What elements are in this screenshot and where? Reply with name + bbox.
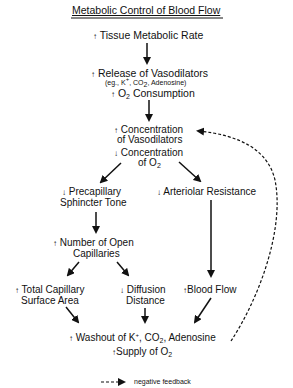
text-part: , CO <box>139 332 160 343</box>
arrow-open-capillaries-to-diffusion <box>117 262 128 275</box>
increase-arrow-icon: ↑ <box>111 90 115 99</box>
text-part: of O <box>138 157 157 168</box>
text-part: Consumption <box>130 87 195 99</box>
node-surface-area-line2: Surface Area <box>21 295 79 307</box>
node-precapillary-line2: Sphincter Tone <box>60 197 127 209</box>
node-diffusion-line2: Distance <box>126 295 165 307</box>
text-part: , Adenosine <box>163 332 215 343</box>
negative-feedback-arrow <box>198 131 277 341</box>
arrow-concentration-to-precapillary <box>101 163 121 182</box>
node-open-capillaries-line2: Capillaries <box>73 248 120 260</box>
text-part: Washout of K <box>76 332 136 343</box>
node-washout: ↑ Washout of K+, CO2, Adenosine <box>69 332 216 345</box>
arrow-concentration-to-arteriolar <box>179 162 200 181</box>
arrow-blood-flow-to-washout <box>195 298 211 322</box>
increase-arrow-icon: ↑ <box>15 286 19 295</box>
node-supply-o2: ↑Supply of O2 <box>112 346 172 359</box>
legend-label: negative feedback <box>134 376 191 388</box>
subscript: 2 <box>157 162 161 169</box>
node-text: Number of Open <box>60 237 134 248</box>
decrease-arrow-icon: ↓ <box>120 286 124 295</box>
subscript: 2 <box>168 351 172 358</box>
node-tissue-metabolic-rate: ↑ Tissue Metabolic Rate <box>93 29 203 43</box>
text-part: O <box>118 87 126 99</box>
node-o2-consumption: ↑ O2 Consumption <box>111 87 195 101</box>
node-concentration-vasodilators-line2: of Vasodilators <box>117 134 182 146</box>
increase-arrow-icon: ↑ <box>91 70 95 79</box>
decrease-arrow-icon: ↓ <box>62 188 66 197</box>
node-arteriolar-resistance: ↓ Arteriolar Resistance <box>157 186 256 199</box>
node-text: Precapillary <box>69 186 121 197</box>
node-text: Blood Flow <box>187 284 236 295</box>
node-text: Tissue Metabolic Rate <box>100 29 204 41</box>
text-part: Supply of O <box>116 346 168 357</box>
node-concentration-o2-line2: of O2 <box>138 157 161 169</box>
arrow-surface-to-washout <box>66 307 78 322</box>
node-text: Diffusion <box>127 284 166 295</box>
node-text: Total Capillary <box>22 284 85 295</box>
text-part: , CO <box>129 79 143 86</box>
text-part: (eg., K <box>105 79 126 86</box>
arrow-open-capillaries-to-surface <box>68 262 79 275</box>
decrease-arrow-icon: ↓ <box>114 149 118 158</box>
increase-arrow-icon: ↑ <box>93 32 97 41</box>
decrease-arrow-icon: ↓ <box>157 188 161 197</box>
text-part: , Adenosine) <box>147 79 186 86</box>
increase-arrow-icon: ↑ <box>53 239 57 248</box>
diagram-title: Metabolic Control of Blood Flow <box>72 4 220 16</box>
node-blood-flow: ↑Blood Flow <box>183 284 236 297</box>
node-text: Arteriolar Resistance <box>163 186 256 197</box>
increase-arrow-icon: ↑ <box>69 334 73 343</box>
